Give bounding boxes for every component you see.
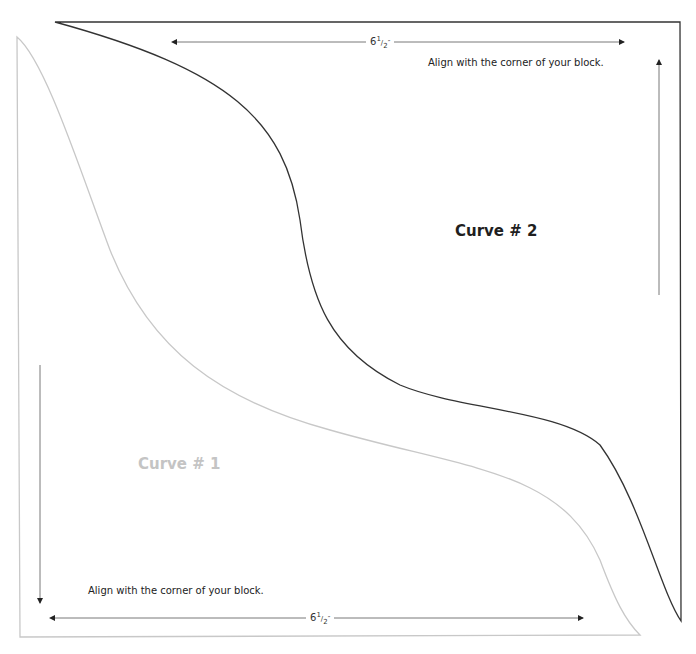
dimension-unit: ″ (328, 615, 331, 623)
curve-2-outline (55, 22, 681, 621)
dimension-unit: ″ (388, 39, 391, 47)
bottom-dimension-label: 61/2″ (306, 611, 334, 626)
pattern-diagram (0, 0, 696, 654)
top-align-note: Align with the corner of your block. (428, 57, 604, 68)
curve-1-outline (17, 37, 640, 637)
curve-2-label: Curve # 2 (455, 222, 538, 240)
bottom-align-note: Align with the corner of your block. (88, 585, 264, 596)
curve-1-label: Curve # 1 (138, 455, 221, 473)
top-dimension-label: 61/2″ (366, 35, 394, 50)
